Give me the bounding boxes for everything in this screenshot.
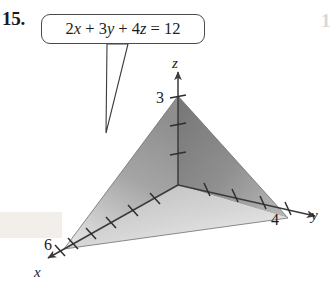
y-axis-label: y (311, 207, 318, 224)
z-intercept-label: 3 (156, 89, 164, 107)
equation-var-x: x (74, 19, 81, 38)
equation-plus-2: + (118, 19, 127, 38)
equation-coef-z: 4 (132, 19, 140, 38)
callout-leader-wedge (106, 44, 128, 133)
plane-triangle (64, 96, 288, 249)
figure-container: 15. 1 (0, 0, 330, 291)
equation-coef-y: 3 (99, 19, 107, 38)
equation-var-y: y (107, 19, 114, 38)
x-intercept-label: 6 (44, 236, 52, 254)
x-tick-6 (55, 245, 65, 256)
equation-equals: = (151, 19, 160, 38)
equation-callout: 2x + 3y + 4z = 12 (41, 14, 205, 44)
z-axis-label: z (172, 55, 178, 72)
equation-text: 2x + 3y + 4z = 12 (65, 19, 180, 39)
equation-var-z: z (140, 19, 146, 38)
equation-plus-1: + (85, 19, 94, 38)
callout-leader (106, 44, 128, 133)
y-tick-4 (285, 202, 291, 215)
equation-coef-x: 2 (65, 19, 73, 38)
equation-constant: 12 (164, 19, 181, 38)
y-intercept-label: 4 (271, 211, 279, 229)
x-axis-label: x (34, 264, 41, 281)
